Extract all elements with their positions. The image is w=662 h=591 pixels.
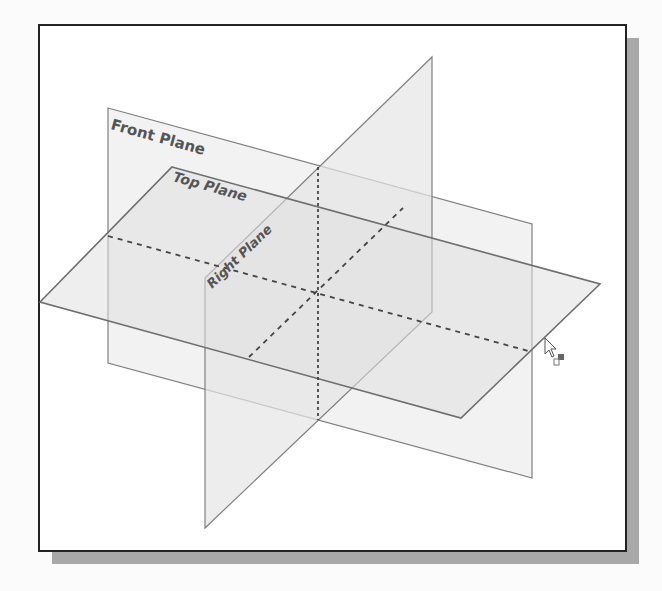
reference-planes-diagram: Front Plane Top Plane Right Plane: [0, 0, 662, 591]
